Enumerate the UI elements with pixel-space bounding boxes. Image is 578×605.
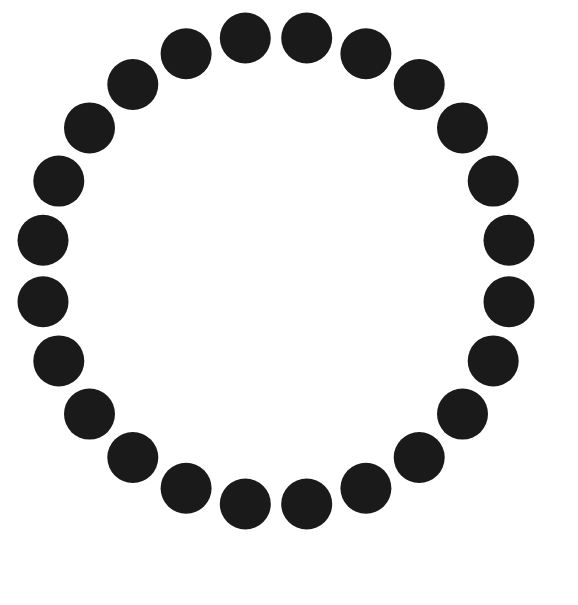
dot-marker [220, 479, 271, 530]
dot-marker [340, 463, 391, 514]
dot-marker [281, 479, 332, 530]
dot-marker [468, 335, 519, 386]
dot-marker [33, 156, 84, 207]
dot-marker [33, 335, 84, 386]
dot-marker [468, 156, 519, 207]
dot-ring-canvas [0, 0, 578, 605]
dot-marker [64, 389, 115, 440]
dot-marker [437, 389, 488, 440]
dot-marker [394, 59, 445, 110]
dot-marker [484, 215, 535, 266]
dot-ring-figure [0, 0, 578, 605]
dot-marker [161, 463, 212, 514]
dot-marker [281, 13, 332, 64]
dot-marker [161, 28, 212, 79]
dot-marker [18, 276, 69, 327]
dot-marker [340, 28, 391, 79]
dot-marker [394, 432, 445, 483]
dot-marker [437, 102, 488, 153]
dot-marker [107, 432, 158, 483]
dot-marker [220, 13, 271, 64]
dot-marker [107, 59, 158, 110]
dot-marker [484, 276, 535, 327]
dot-marker [64, 102, 115, 153]
dot-marker [18, 215, 69, 266]
